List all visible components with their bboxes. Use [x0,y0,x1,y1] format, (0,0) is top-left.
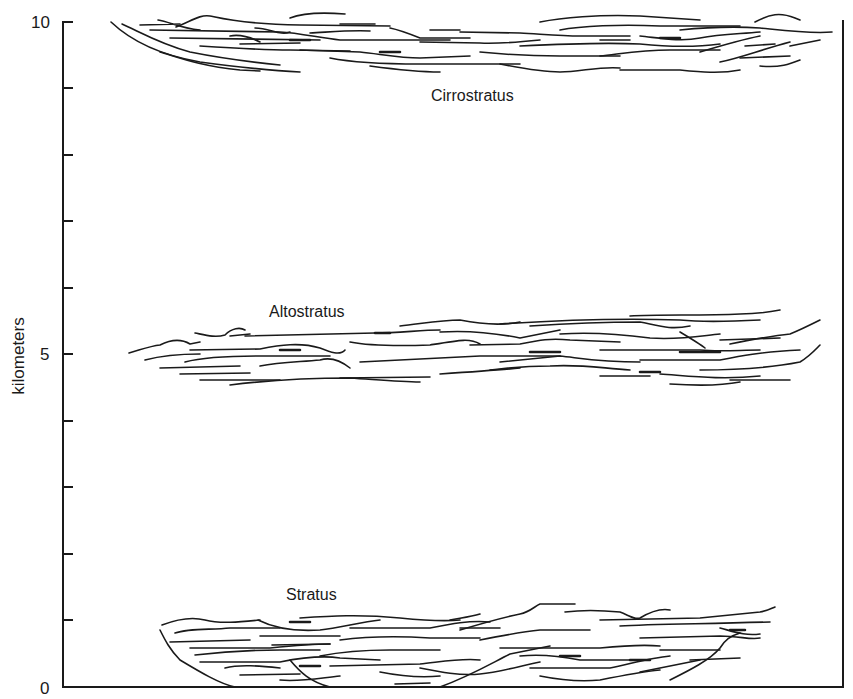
diagram-canvas [0,0,853,699]
cirrostratus-cloud-layer [111,13,832,72]
cloud-layers-diagram: 10 5 0 kilometers Cirrostratus Altostrat… [0,0,853,699]
stratus-cloud-layer [160,604,775,687]
y-axis-ticks [63,22,73,620]
altostratus-cloud-layer [129,310,820,385]
